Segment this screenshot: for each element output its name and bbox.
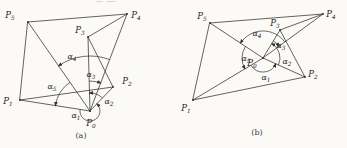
vertex-p4-b [322, 13, 324, 15]
angle-arc-alpha3-a [89, 81, 101, 83]
angle-label-alpha2-b: α2 [282, 57, 291, 67]
vertex-p1-b [192, 99, 194, 101]
ray-p0-p1-a [20, 100, 90, 111]
vertex-p4-a [126, 13, 128, 15]
vertex-p2-a [112, 86, 114, 88]
angle-label-alpha1-b: α1 [261, 73, 270, 83]
vertex-p3-b [279, 29, 281, 31]
vertex-label-p3-b: P3 [269, 18, 280, 29]
angle-label-alpha2-a: α2 [104, 97, 113, 107]
angle-label-alpha3-a: α3 [86, 70, 95, 80]
vertex-label-p2-b: P2 [307, 69, 318, 80]
figure-a: P1 P2 P3 P4 P5 P0 α1 α2 α3 α4 α5 (a) [2, 10, 141, 140]
angle-label-alpha4-b: α4 [252, 29, 261, 39]
angle-label-alpha5-a: α5 [47, 82, 56, 92]
vertex-label-p4-b: P4 [325, 9, 336, 20]
vertex-label-p5-b: P5 [196, 11, 207, 22]
vertex-label-p5-a: P5 [4, 10, 15, 21]
vertex-label-p1-a: P1 [2, 96, 12, 107]
caption-b: (b) [251, 128, 262, 137]
caption-a: (a) [75, 131, 86, 140]
vertex-p0-b [262, 57, 264, 59]
vertex-p0-a [89, 110, 91, 112]
angle-label-alpha1-a: α1 [71, 111, 80, 121]
vertex-label-p1-b: P1 [180, 103, 190, 114]
vertex-label-p4-a: P4 [130, 10, 141, 21]
polygon-angle-diagram: P1 P2 P3 P4 P5 P0 α1 α2 α3 α4 α5 (a) [0, 0, 347, 148]
vertex-label-p2-a: P2 [121, 76, 132, 87]
vertex-p2-b [304, 76, 306, 78]
vertex-p1-a [19, 99, 21, 101]
polygon-b [193, 14, 323, 100]
vertex-p5-b [209, 22, 211, 24]
vertex-p3-a [87, 36, 89, 38]
vertex-p5-a [27, 21, 29, 23]
angle-label-alpha5-b: α5 [241, 54, 250, 64]
vertex-label-p3-a: P3 [74, 25, 85, 36]
figure-b: P1 P2 P3 P4 P5 P0 α1 α2 α3 α4 α5 (b) [180, 9, 336, 137]
angle-label-alpha4-a: α4 [67, 52, 76, 62]
